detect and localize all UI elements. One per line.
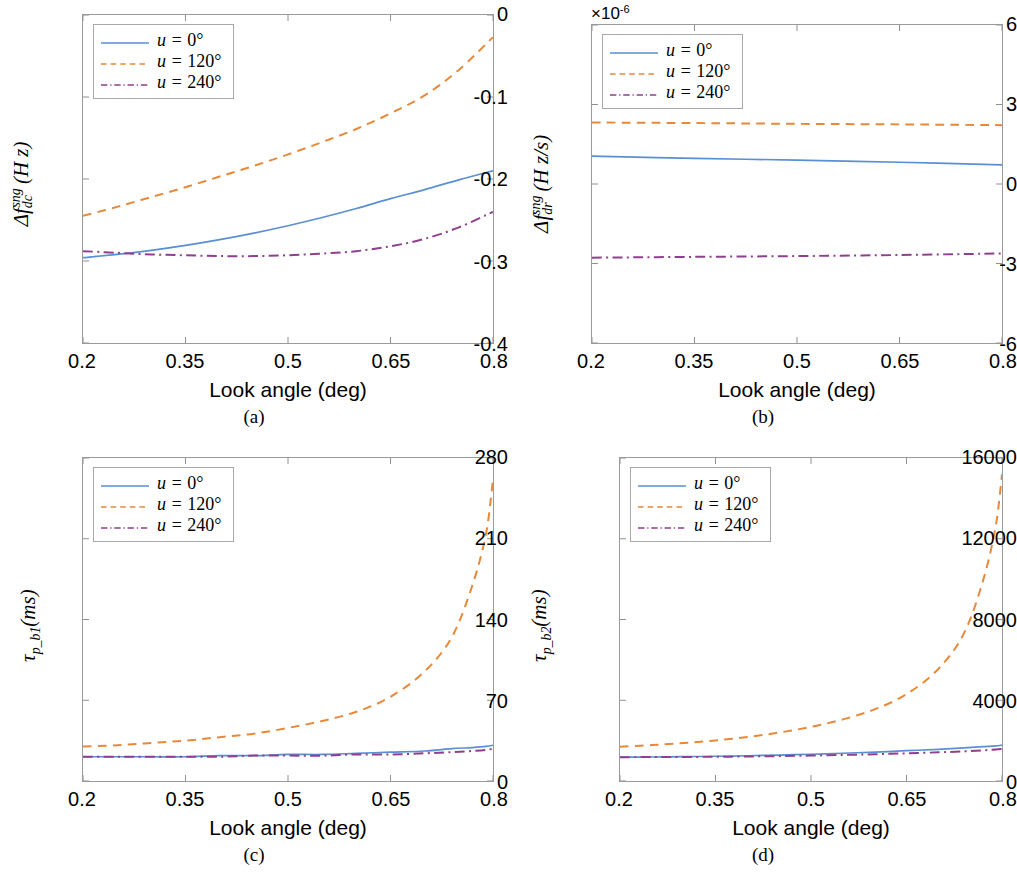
legend-swatch-dashdot <box>609 87 659 99</box>
panel-d-xtick-0: 0.2 <box>605 788 633 811</box>
legend-label: u = 240° <box>157 72 221 93</box>
panel-c-xtick-1: 0.35 <box>166 788 205 811</box>
panel-c-xtick-4: 0.8 <box>480 788 508 811</box>
panel-b-legend: u = 0°u = 120°u = 240° <box>602 34 743 109</box>
panel-c-xtick-0: 0.2 <box>68 788 96 811</box>
panel-b-xtick-2: 0.5 <box>783 350 811 373</box>
panel-c-xtick-2: 0.5 <box>274 788 302 811</box>
legend-item-120: u = 120° <box>100 494 225 515</box>
legend-swatch-dashed <box>100 499 150 511</box>
series-line-0 <box>83 171 493 258</box>
panel-a-xtick-2: 0.5 <box>274 350 302 373</box>
panel-c-legend: u = 0°u = 120°u = 240° <box>93 467 234 542</box>
legend-item-240: u = 240° <box>637 515 762 536</box>
panel-a-ylabel: Δfdcsng (H z) <box>8 94 36 274</box>
legend-label: u = 120° <box>666 61 730 82</box>
legend-label: u = 240° <box>694 515 758 536</box>
panel-d-legend: u = 0°u = 120°u = 240° <box>630 467 771 542</box>
series-line-240 <box>83 212 493 256</box>
panel-d-ytick-3: 4000 <box>915 689 1017 712</box>
panel-c-ylabel: τp_b1(ms) <box>16 536 43 716</box>
legend-swatch-solid <box>609 45 659 57</box>
panel-b-xtick-1: 0.35 <box>675 350 714 373</box>
panel-b-ytick-3: -3 <box>943 253 1017 276</box>
legend-swatch-dashed <box>609 66 659 78</box>
legend-item-0: u = 0° <box>100 30 225 51</box>
legend-label: u = 240° <box>666 82 730 103</box>
panel-d-xtick-1: 0.35 <box>696 788 735 811</box>
legend-label: u = 240° <box>157 515 221 536</box>
legend-swatch-dashed <box>100 56 150 68</box>
panel-c-caption: (c) <box>0 844 508 866</box>
panel-c-xlabel: Look angle (deg) <box>82 816 494 840</box>
figure-root: Δfdcsng (H z) 0 -0.1 -0.2 -0.3 -0.4 0.2 … <box>0 0 1017 873</box>
legend-item-240: u = 240° <box>609 82 734 103</box>
legend-item-120: u = 120° <box>637 494 762 515</box>
legend-label: u = 0° <box>666 40 712 61</box>
legend-item-0: u = 0° <box>609 40 734 61</box>
legend-swatch-dashdot <box>100 77 150 89</box>
legend-item-0: u = 0° <box>100 473 225 494</box>
legend-item-240: u = 240° <box>100 515 225 536</box>
panel-b-ytick-2: 0 <box>943 173 1017 196</box>
panel-b-xlabel: Look angle (deg) <box>591 378 1003 402</box>
panel-b-xtick-4: 0.8 <box>989 350 1017 373</box>
panel-a: Δfdcsng (H z) 0 -0.1 -0.2 -0.3 -0.4 0.2 … <box>0 0 508 436</box>
panel-b-xtick-0: 0.2 <box>577 350 605 373</box>
panel-d-ytick-2: 8000 <box>915 608 1017 631</box>
panel-d-ytick-0: 16000 <box>915 446 1017 469</box>
panel-b-ytick-0: 6 <box>943 13 1017 36</box>
panel-c: τp_b1(ms) 280 210 140 70 0 0.2 0.35 0.5 … <box>0 437 508 873</box>
panel-a-caption: (a) <box>0 406 508 428</box>
legend-item-240: u = 240° <box>100 72 225 93</box>
panel-c-ytick-0: 280 <box>434 446 508 469</box>
panel-a-xtick-1: 0.35 <box>166 350 205 373</box>
panel-b-ylabel: Δfdrsng (H z/s) <box>528 89 556 279</box>
panel-c-ytick-1: 210 <box>434 527 508 550</box>
panel-d-caption: (d) <box>509 844 1017 866</box>
legend-swatch-solid <box>100 35 150 47</box>
legend-swatch-dashed <box>637 499 687 511</box>
panel-a-xlabel: Look angle (deg) <box>82 378 494 402</box>
panel-a-legend: u = 0°u = 120°u = 240° <box>93 24 234 99</box>
panel-b-xtick-3: 0.65 <box>881 350 920 373</box>
panel-a-ytick-1: -0.1 <box>434 85 508 108</box>
panel-b-axis-exponent: ×10-6 <box>591 3 630 24</box>
panel-d: τp_b2(ms) 16000 12000 8000 4000 0 0.2 0.… <box>509 437 1017 873</box>
panel-a-ytick-3: -0.3 <box>434 250 508 273</box>
panel-b-ytick-1: 3 <box>943 93 1017 116</box>
panel-d-ytick-1: 12000 <box>915 527 1017 550</box>
legend-swatch-dashdot <box>637 520 687 532</box>
panel-d-xtick-3: 0.65 <box>888 788 927 811</box>
legend-item-120: u = 120° <box>100 51 225 72</box>
panel-b-caption: (b) <box>509 406 1017 428</box>
legend-swatch-solid <box>637 478 687 490</box>
panel-a-ytick-2: -0.2 <box>434 168 508 191</box>
panel-a-xtick-0: 0.2 <box>68 350 96 373</box>
panel-b-exponent-base: ×10 <box>591 4 620 23</box>
series-line-240 <box>592 253 1002 257</box>
series-line-120 <box>592 123 1002 126</box>
panel-b: Δfdrsng (H z/s) ×10-6 6 3 0 -3 -6 0.2 0.… <box>509 0 1017 436</box>
legend-label: u = 0° <box>694 473 740 494</box>
legend-label: u = 120° <box>157 51 221 72</box>
legend-swatch-dashdot <box>100 520 150 532</box>
panel-b-exponent-power: -6 <box>620 3 630 15</box>
panel-a-ytick-0: 0 <box>434 3 508 26</box>
legend-swatch-solid <box>100 478 150 490</box>
panel-c-xtick-3: 0.65 <box>372 788 411 811</box>
legend-label: u = 0° <box>157 473 203 494</box>
panel-d-xlabel: Look angle (deg) <box>619 816 1003 840</box>
panel-a-xtick-4: 0.8 <box>480 350 508 373</box>
legend-label: u = 0° <box>157 30 203 51</box>
panel-c-ytick-2: 140 <box>434 608 508 631</box>
series-line-0 <box>592 156 1002 165</box>
panel-d-ylabel: τp_b2(ms) <box>527 536 554 716</box>
panel-d-xtick-4: 0.8 <box>989 788 1017 811</box>
legend-label: u = 120° <box>694 494 758 515</box>
panel-a-xtick-3: 0.65 <box>372 350 411 373</box>
legend-label: u = 120° <box>157 494 221 515</box>
panel-d-xtick-2: 0.5 <box>797 788 825 811</box>
series-line-0 <box>83 745 493 757</box>
panel-c-ytick-3: 70 <box>434 689 508 712</box>
